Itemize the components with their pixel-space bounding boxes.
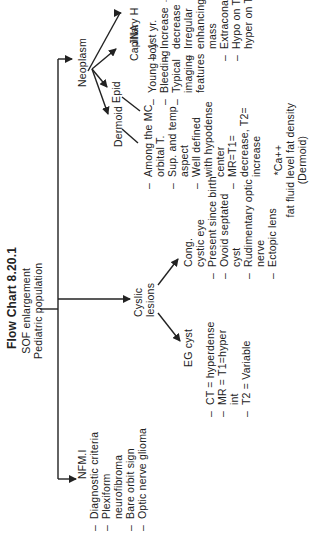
root-line-2: Pediatric population — [32, 263, 44, 359]
list-item: hyper on T2 — [242, 0, 254, 61]
cong-cystic-eye-node: Cong. cystic eye Present since birthOvoi… — [182, 176, 278, 279]
dermoid-label: Dermoid — [112, 106, 124, 237]
list-item: enhancing — [194, 0, 206, 61]
dermoid-node: Dermoid — [112, 106, 124, 237]
list-item: Well defined — [190, 101, 202, 189]
list-item: CT = hyperdense — [204, 321, 216, 417]
cong-label-2: cystic eye — [194, 176, 206, 279]
cong-label-1: Cong. — [182, 176, 194, 279]
list-item: Hypo on T1 — [230, 0, 242, 61]
list-item: MR = T1=hyper — [216, 321, 228, 417]
root-line-1: SOF enlargement — [20, 263, 32, 359]
list-item: Irregular — [182, 0, 194, 61]
dermoid-details: Among the MCorbital T.Sup. and tempaspec… — [142, 101, 308, 189]
dermoid-note-1: *Ca++ — [272, 101, 284, 219]
list-item: decrease — [170, 0, 182, 61]
list-item: cyst — [230, 176, 242, 279]
list-item: Present since birth — [206, 176, 218, 279]
list-item: int — [228, 321, 240, 417]
list-item: 1st yr. — [146, 0, 158, 61]
neoplasm-node: Neoplasm — [76, 38, 88, 87]
flowchart-page: Flow Chart 8.20.1 SOF enlargement Pediat… — [0, 0, 312, 549]
list-item: orbital T. — [154, 101, 166, 189]
eg-cyst-items: CT = hyperdenseMR = T1=hyperintT2 = Vari… — [204, 321, 252, 417]
list-item: Increase → — [158, 0, 170, 61]
dermoid-note-3: (Dermoid) — [296, 101, 308, 219]
cystic-node: Cyslic lesions — [132, 283, 156, 317]
capillary-items: 1st yr.Increase →decreaseIrregularenhanc… — [146, 0, 254, 61]
dermoid-note-2: fat fluid level fat density — [284, 101, 296, 219]
list-item: neurofibroma — [112, 428, 124, 531]
nf-label: NFM.I — [76, 428, 88, 531]
dermoid-items: Among the MCorbital T.Sup. and tempaspec… — [142, 101, 262, 189]
list-item: mass — [206, 0, 218, 61]
nf-node: NFM.I Diagnostic criteriaPlexiformneurof… — [76, 428, 148, 531]
list-item: with hypodense — [202, 101, 214, 189]
list-item: MR=T1= — [226, 101, 238, 189]
list-item: Diagnostic criteria — [88, 428, 100, 531]
list-item: Ovoid septated — [218, 176, 230, 279]
capillary-label: Capillary H — [128, 0, 140, 61]
list-item: aspect — [178, 101, 190, 189]
cong-items: Present since birthOvoid septatedcystRud… — [206, 176, 278, 279]
chart-title: Flow Chart 8.20.1 — [6, 247, 18, 349]
list-item: Rudimentary optic — [242, 176, 254, 279]
list-item: T2 = Variable — [240, 321, 252, 417]
list-item: increase — [250, 101, 262, 189]
eg-cyst-node: EG cyst CT = hyperdenseMR = T1=hyperintT… — [182, 321, 252, 417]
list-item: nerve — [254, 176, 266, 279]
nf-items: Diagnostic criteriaPlexiformneurofibroma… — [88, 428, 148, 531]
list-item: Sup. and temp — [166, 101, 178, 189]
root-node: SOF enlargement Pediatric population — [20, 263, 44, 359]
list-item: decrease, T2= — [238, 101, 250, 189]
list-item: Among the MC — [142, 101, 154, 189]
dermoid-note: *Ca++ fat fluid level fat density (Dermo… — [272, 101, 308, 219]
cystic-label-1: Cyslic — [132, 283, 144, 317]
eg-cyst-label: EG cyst — [182, 321, 194, 417]
list-item: Plexiform — [100, 428, 112, 531]
epid-node: Epid — [110, 81, 122, 103]
capillary-node: Capillary H 1st yr.Increase →decreaseIrr… — [128, 0, 254, 61]
list-item: Optic nerve glioma — [136, 428, 148, 531]
cystic-label-2: lesions — [144, 283, 156, 317]
list-item: center — [214, 101, 226, 189]
list-item: Bare orbit sign — [124, 428, 136, 531]
list-item: Extraconal — [218, 0, 230, 61]
